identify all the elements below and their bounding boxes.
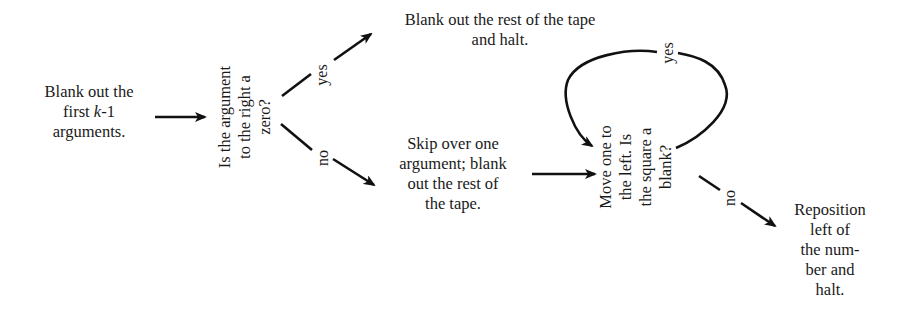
edge-label-q1-yes: yes	[314, 64, 330, 85]
arrow-q1-no-to-skip	[333, 159, 374, 185]
node-q1-line-2: to the right a	[235, 47, 255, 187]
node-question-argument-zero: Is the argument to the right a zero?	[215, 47, 279, 187]
node-skip-line-2: argument; blank	[380, 154, 526, 174]
edge-q2-yes-loop-right	[676, 53, 727, 148]
node-q2-line-3: the square a	[636, 112, 656, 222]
node-q1-line-1: Is the argument	[215, 47, 235, 187]
node-reposition-halt: Reposition left of the num- ber and halt…	[780, 200, 880, 300]
edge-q1-no-segment	[281, 124, 312, 150]
node-skip-line-1: Skip over one	[380, 134, 526, 154]
node-q2-line-4: blank?	[656, 112, 676, 222]
edge-label-q2-yes: yes	[660, 42, 676, 63]
node-skip-line-3: out the rest of	[380, 174, 526, 194]
node-repo-line-5: halt.	[780, 280, 880, 300]
node-halt-line-2: and halt.	[370, 30, 630, 50]
node-start-line-2: first k-1	[28, 102, 150, 122]
node-halt-line-1: Blank out the rest of the tape	[370, 10, 630, 30]
node-start-line-2-a: first	[63, 102, 94, 121]
arrow-q1-yes-to-halt	[334, 34, 371, 60]
node-repo-line-4: ber and	[780, 260, 880, 280]
node-q1-line-3: zero?	[255, 47, 275, 187]
node-blank-first-args: Blank out the first k-1 arguments.	[28, 82, 150, 142]
node-start-line-3: arguments.	[28, 122, 150, 142]
node-start-line-2-b: -1	[101, 102, 115, 121]
node-question-square-blank: Move one to the left. Is the square a bl…	[596, 112, 680, 222]
node-repo-line-1: Reposition	[780, 200, 880, 220]
edge-q1-yes-segment	[282, 74, 311, 96]
node-repo-line-2: left of	[780, 220, 880, 240]
node-skip-argument: Skip over one argument; blank out the re…	[380, 134, 526, 214]
node-q2-line-2: the left. Is	[616, 112, 636, 222]
arrow-q2-no-to-reposition	[741, 203, 775, 226]
node-start-line-1: Blank out the	[28, 82, 150, 102]
edge-label-q1-no: no	[315, 150, 331, 166]
edge-label-q2-no: no	[722, 190, 738, 206]
node-blank-rest-halt: Blank out the rest of the tape and halt.	[370, 10, 630, 50]
edge-q2-no-segment	[699, 176, 720, 190]
node-repo-line-3: the num-	[780, 240, 880, 260]
node-q2-line-1: Move one to	[596, 112, 616, 222]
node-skip-line-4: the tape.	[380, 194, 526, 214]
